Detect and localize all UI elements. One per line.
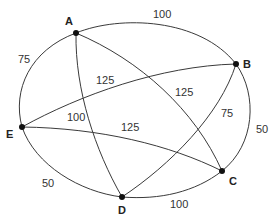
graph-canvas: A B C D E 100 50 100 50 75 125 100 125 7…	[0, 0, 277, 220]
edge-A-C	[76, 33, 222, 171]
node-label-C: C	[229, 175, 237, 187]
node-label-B: B	[243, 58, 251, 70]
edge-C-D	[122, 171, 222, 198]
weight-A-C: 125	[175, 86, 193, 98]
node-label-A: A	[65, 15, 73, 27]
node-A-dot	[73, 30, 79, 36]
edge-A-B	[76, 23, 236, 64]
weight-B-C: 50	[256, 123, 268, 135]
weight-A-D: 100	[67, 111, 85, 123]
weight-B-E: 125	[96, 74, 114, 86]
edge-B-E	[22, 64, 236, 127]
weight-E-C: 125	[121, 121, 139, 133]
weight-B-D: 75	[221, 107, 233, 119]
weight-A-B: 100	[153, 8, 171, 20]
weight-D-E: 50	[42, 177, 54, 189]
weight-E-A: 75	[18, 53, 30, 65]
node-label-E: E	[6, 128, 13, 140]
node-E-dot	[19, 124, 25, 130]
node-C-dot	[219, 168, 225, 174]
edge-D-E	[22, 127, 122, 197]
node-B-dot	[233, 61, 239, 67]
weight-C-D: 100	[170, 198, 188, 210]
node-D-dot	[119, 194, 125, 200]
weighted-graph-diagram: A B C D E 100 50 100 50 75 125 100 125 7…	[0, 0, 277, 220]
edge-E-C	[22, 127, 222, 171]
node-label-D: D	[118, 204, 126, 216]
